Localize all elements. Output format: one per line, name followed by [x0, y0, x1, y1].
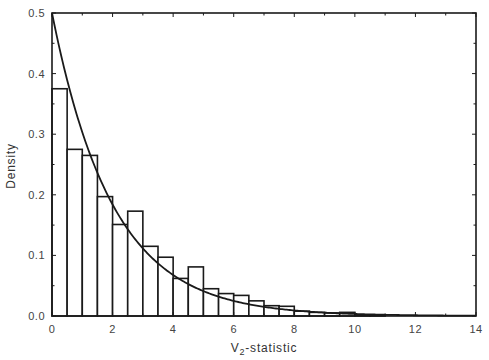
y-tick-label: 0.0: [28, 310, 45, 322]
histogram-bar: [249, 301, 264, 316]
x-tick-label: 0: [49, 323, 56, 335]
histogram-bar: [128, 211, 143, 316]
x-axis-tick-labels: 02468101214: [49, 323, 483, 335]
y-axis-title: Density: [4, 143, 18, 189]
x-tick-label: 14: [469, 323, 482, 335]
histogram-bar: [97, 197, 112, 316]
histogram-bar: [52, 89, 67, 316]
x-tick-label: 10: [348, 323, 361, 335]
histogram-bar: [234, 295, 249, 316]
y-tick-label: 0.4: [28, 68, 45, 80]
histogram-bar: [82, 155, 97, 316]
y-tick-label: 0.5: [28, 7, 45, 19]
x-tick-label: 2: [109, 323, 116, 335]
y-tick-label: 0.1: [28, 249, 45, 261]
x-axis-title-main: V: [231, 341, 240, 355]
histogram-bar: [113, 224, 128, 316]
x-tick-label: 8: [291, 323, 298, 335]
histogram-bar: [173, 278, 188, 316]
histogram-bars: [52, 89, 385, 316]
histogram-bar: [279, 306, 294, 316]
histogram-bar: [188, 267, 203, 316]
x-tick-label: 6: [230, 323, 237, 335]
x-axis-title-suffix: -statistic: [245, 341, 297, 355]
histogram-chart: 02468101214 0.00.10.20.30.40.5 V2-statis…: [0, 0, 489, 360]
y-tick-label: 0.2: [28, 189, 45, 201]
y-axis-tick-labels: 0.00.10.20.30.40.5: [28, 7, 45, 322]
x-tick-label: 12: [409, 323, 422, 335]
y-tick-label: 0.3: [28, 128, 45, 140]
x-tick-label: 4: [170, 323, 177, 335]
x-axis-title: V2-statistic: [231, 341, 298, 357]
histogram-bar: [67, 149, 82, 316]
